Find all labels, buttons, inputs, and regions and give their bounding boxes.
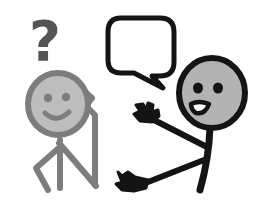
speaker-open-mouth	[191, 102, 209, 113]
listener-right-eye	[62, 93, 70, 101]
stick-figure-scene: ?	[0, 0, 261, 201]
question-mark-glyph: ?	[29, 9, 61, 73]
illustration-canvas: Two stick figures conversing ?	[0, 0, 261, 201]
speaker-head	[179, 58, 245, 128]
speaker-right-eye	[213, 83, 223, 94]
speaker-left-eye	[193, 83, 203, 94]
listener-left-eye	[44, 94, 52, 102]
question-mark-symbol: ?	[29, 9, 61, 73]
listener-head	[28, 73, 88, 135]
